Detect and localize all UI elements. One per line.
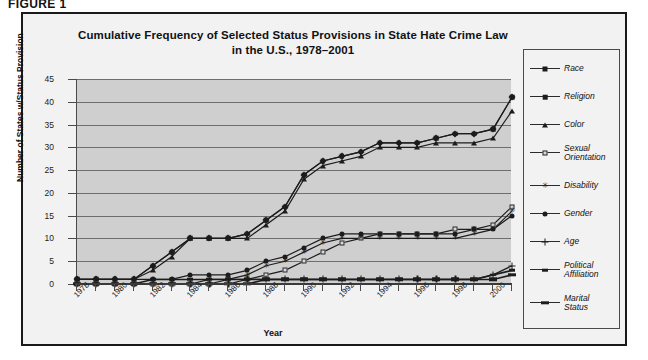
data-point — [489, 278, 497, 281]
x-axis-tick — [246, 284, 247, 291]
x-axis-tick — [322, 284, 323, 291]
x-axis-tick — [435, 284, 436, 291]
y-axis-tick — [68, 261, 76, 262]
data-point — [413, 278, 421, 281]
legend-item-gender[interactable]: Gender — [530, 201, 618, 227]
data-point — [377, 145, 383, 150]
x-axis-ticks: 1978198019821984198619881990199219941996… — [76, 284, 511, 329]
data-point — [490, 136, 496, 141]
legend-item-political-affiliation[interactable]: Political Affiliation — [530, 257, 618, 283]
x-axis-tick-label: 1994 — [375, 280, 394, 299]
data-point — [245, 268, 250, 273]
x-axis-tick — [360, 284, 361, 291]
data-point — [187, 236, 193, 241]
legend-label: Marital Status — [564, 294, 590, 313]
data-point — [320, 236, 325, 241]
y-axis-tick-label: 25 — [34, 165, 54, 175]
figure-frame: Cumulative Frequency of Selected Status … — [21, 12, 627, 346]
data-point — [376, 278, 384, 281]
data-point — [470, 278, 478, 281]
data-point — [225, 278, 231, 281]
series-line-gender — [77, 216, 512, 280]
y-axis-tick-label: 0 — [34, 279, 54, 289]
x-axis-tick — [473, 284, 474, 291]
data-point — [358, 154, 364, 159]
data-point — [434, 231, 439, 236]
legend-item-race[interactable]: Race — [530, 56, 618, 82]
x-axis-tick-label: 1984 — [185, 280, 204, 299]
series-line-sexual-orientation — [77, 207, 512, 284]
x-axis-tick-label: 2000 — [488, 280, 507, 299]
legend-marker-icon — [530, 207, 560, 221]
data-point — [510, 213, 515, 218]
legend-item-color[interactable]: Color — [530, 112, 618, 138]
y-axis-title: Number of States w/Status Provision — [15, 33, 25, 182]
data-point — [225, 236, 231, 241]
data-point — [338, 278, 346, 281]
data-point — [169, 278, 175, 281]
y-axis-tick-label: 35 — [34, 120, 54, 130]
legend-item-age[interactable]: Age — [530, 229, 618, 255]
legend-marker-icon: ✳ — [530, 179, 560, 193]
data-point — [320, 250, 325, 255]
series-lines — [77, 79, 512, 284]
series-line-political-affiliation — [77, 270, 512, 284]
x-axis-tick-label: 1986 — [223, 280, 242, 299]
y-axis-tick — [68, 170, 76, 171]
legend-item-disability[interactable]: ✳Disability — [530, 173, 618, 199]
legend-label: Political Affiliation — [564, 261, 599, 280]
figure-root: FIGURE 1 Cumulative Frequency of Selecte… — [0, 0, 648, 360]
data-point — [320, 163, 326, 168]
figure-label: FIGURE 1 — [8, 0, 67, 11]
y-axis-tick — [68, 238, 76, 239]
legend-marker-icon — [530, 263, 560, 277]
data-point — [358, 231, 363, 236]
y-axis-tick — [68, 125, 76, 126]
x-axis-tick — [284, 284, 285, 291]
plot-area: ✳✳✳✳✳✳✳✳✳✳✳✳✳✳✳✳✳✳✳✳✳✳✳✳ — [76, 79, 511, 284]
x-axis-tick-label: 1990 — [299, 280, 318, 299]
legend-label: Race — [564, 64, 584, 74]
data-point — [283, 254, 288, 259]
legend-item-marital-status[interactable]: Marital Status — [530, 290, 618, 316]
y-axis-tick-label: 10 — [34, 233, 54, 243]
legend-label: Religion — [564, 92, 595, 102]
x-axis-tick-label: 1988 — [261, 280, 280, 299]
data-point — [472, 131, 477, 136]
y-axis-tick — [68, 79, 76, 80]
data-point — [226, 272, 231, 277]
y-axis-tick-label: 30 — [34, 142, 54, 152]
data-point — [263, 222, 269, 227]
data-point — [452, 140, 458, 145]
legend-marker-icon — [530, 62, 560, 76]
data-point — [281, 278, 289, 281]
data-point — [150, 268, 156, 273]
legend-label: Disability — [564, 181, 598, 191]
legend-item-religion[interactable]: Religion — [530, 84, 618, 110]
data-point — [319, 278, 327, 281]
x-axis-title: Year — [23, 328, 523, 338]
data-point — [357, 278, 365, 281]
legend-label: Age — [564, 237, 579, 247]
x-axis-tick — [133, 284, 134, 291]
x-axis-tick — [511, 284, 512, 291]
data-point — [510, 95, 515, 100]
chart-legend: RaceReligionColorSexual Orientation✳Disa… — [523, 49, 620, 329]
legend-marker-icon — [530, 146, 560, 160]
data-point — [508, 273, 516, 276]
data-point — [169, 254, 175, 259]
legend-item-sexual-orientation[interactable]: Sexual Orientation — [530, 140, 618, 166]
data-point — [395, 278, 403, 281]
data-point — [509, 269, 515, 272]
legend-label: Gender — [564, 209, 592, 219]
y-axis-tick-label: 15 — [34, 211, 54, 221]
data-point — [188, 272, 193, 277]
data-point — [490, 274, 496, 277]
x-axis-tick — [398, 284, 399, 291]
y-axis-tick — [68, 193, 76, 194]
y-axis-tick-label: 40 — [34, 97, 54, 107]
data-point — [415, 231, 420, 236]
x-axis-tick — [208, 284, 209, 291]
data-point — [396, 145, 402, 150]
data-point — [339, 231, 344, 236]
